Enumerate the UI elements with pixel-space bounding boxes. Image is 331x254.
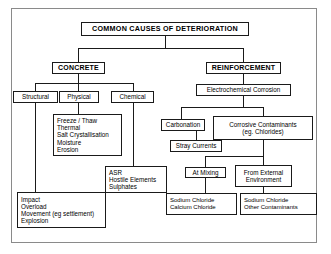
- external-contaminant-1: Sodium Chloride: [244, 197, 316, 204]
- structural-detail-4: Explosion: [21, 217, 105, 224]
- node-physical-details-lines: Freeze / Thaw Thermal Salt Crystallisati…: [54, 117, 121, 152]
- node-concrete-label: CONCRETE: [58, 64, 99, 72]
- node-physical: Physical: [59, 91, 99, 103]
- structural-detail-3: Movement (eg settlement): [21, 210, 105, 217]
- connector-at-mixing-to-contaminants: [205, 178, 206, 193]
- connector-physical-to-details: [78, 103, 79, 114]
- connector-corrosive-bus: [205, 156, 264, 157]
- structural-detail-2: Overload: [21, 203, 105, 210]
- at-mixing-contaminant-2: Calcium Chloride: [170, 204, 236, 211]
- physical-detail-4: Moisture: [57, 139, 121, 146]
- node-chemical-details-lines: ASR Hostile Elements Sulphates: [106, 169, 166, 190]
- connector-to-at-mixing: [205, 156, 206, 167]
- external-contaminant-2: Other Contaminants: [244, 204, 316, 211]
- chemical-detail-2: Hostile Elements: [109, 176, 166, 183]
- node-structural-details: Impact Overload Movement (eg settlement)…: [17, 192, 106, 228]
- node-at-mixing-contaminants-lines: Sodium Chloride Calcium Chloride: [167, 197, 236, 210]
- node-structural: Structural: [13, 91, 58, 103]
- node-at-mixing-contaminants: Sodium Chloride Calcium Chloride: [166, 193, 237, 215]
- connector-structural-to-details: [35, 103, 36, 192]
- node-from-external-environment: From External Environment: [235, 165, 292, 187]
- physical-detail-2: Thermal: [57, 124, 121, 131]
- node-from-external-environment-lines: From External Environment: [236, 169, 291, 183]
- node-chemical-label: Chemical: [119, 93, 145, 100]
- connector-electrochemical-bus: [181, 107, 263, 108]
- node-chemical: Chemical: [111, 91, 154, 103]
- connector-root-bus: [78, 48, 243, 49]
- structural-detail-1: Impact: [21, 196, 105, 203]
- node-physical-label: Physical: [67, 93, 90, 100]
- external-env-line-2: Environment: [236, 176, 291, 183]
- node-corrosive-contaminants: Corrosive Contaminants (eg. Chlorides): [213, 116, 313, 140]
- connector-to-external-env: [263, 156, 264, 165]
- node-external-contaminants-lines: Sodium Chloride Other Contaminants: [241, 197, 316, 210]
- node-physical-details: Freeze / Thaw Thermal Salt Crystallisati…: [53, 114, 122, 156]
- node-carbonation: Carbonation: [161, 119, 205, 131]
- connector-to-reinforcement: [243, 48, 244, 62]
- connector-reinforcement-stem: [243, 74, 244, 84]
- node-chemical-details: ASR Hostile Elements Sulphates: [105, 166, 167, 193]
- node-at-mixing: At Mixing: [185, 167, 226, 178]
- connector-chemical-to-details: [133, 103, 134, 166]
- node-concrete: CONCRETE: [52, 62, 105, 74]
- physical-detail-3: Salt Crystallisation: [57, 131, 121, 138]
- connector-to-carbonation: [181, 107, 182, 119]
- chemical-detail-3: Sulphates: [109, 183, 166, 190]
- node-electrochemical-corrosion-label: Electrochemical Corrosion: [207, 86, 281, 93]
- connector-root-stem: [165, 36, 166, 48]
- connector-to-corrosive-contaminants: [263, 107, 264, 116]
- connector-to-structural: [35, 83, 36, 91]
- connector-to-concrete: [78, 48, 79, 62]
- connector-concrete-stem: [78, 74, 79, 83]
- node-external-contaminants: Sodium Chloride Other Contaminants: [240, 193, 317, 215]
- connector-corrosive-stem: [263, 140, 264, 156]
- node-stray-currents: Stray Currents: [170, 140, 222, 152]
- node-structural-details-lines: Impact Overload Movement (eg settlement)…: [18, 196, 105, 224]
- corrosive-contaminants-line-2: (eg. Chlorides): [214, 128, 312, 135]
- node-root-title-label: COMMON CAUSES OF DETERIORATION: [92, 25, 238, 33]
- node-structural-label: Structural: [22, 93, 49, 100]
- physical-detail-1: Freeze / Thaw: [57, 117, 121, 124]
- deterioration-causes-flowchart: COMMON CAUSES OF DETERIORATION CONCRETE …: [0, 0, 331, 254]
- node-electrochemical-corrosion: Electrochemical Corrosion: [196, 84, 291, 96]
- corrosive-contaminants-line-1: Corrosive Contaminants: [214, 121, 312, 128]
- external-env-line-1: From External: [236, 169, 291, 176]
- node-corrosive-contaminants-lines: Corrosive Contaminants (eg. Chlorides): [214, 121, 312, 135]
- node-at-mixing-label: At Mixing: [193, 169, 219, 176]
- physical-detail-5: Erosion: [57, 146, 121, 153]
- connector-to-chemical: [133, 83, 134, 91]
- connector-concrete-bus: [35, 83, 133, 84]
- node-stray-currents-label: Stray Currents: [176, 142, 217, 149]
- connector-electrochemical-stem: [243, 96, 244, 107]
- connector-carbonation-to-stray: [196, 131, 197, 140]
- chemical-detail-1: ASR: [109, 169, 166, 176]
- node-reinforcement: REINFORCEMENT: [206, 62, 281, 74]
- connector-to-physical: [78, 83, 79, 91]
- at-mixing-contaminant-1: Sodium Chloride: [170, 197, 236, 204]
- node-reinforcement-label: REINFORCEMENT: [212, 64, 276, 72]
- node-root-title: COMMON CAUSES OF DETERIORATION: [81, 22, 249, 36]
- node-carbonation-label: Carbonation: [166, 121, 200, 128]
